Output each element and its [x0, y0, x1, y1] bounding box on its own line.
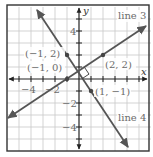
line-3-label: line 3 — [118, 10, 146, 21]
point-1-neg1 — [89, 89, 93, 93]
point-label-neg1-2: (−1, 2) — [25, 48, 60, 59]
point-label-neg1-0: (−1, 0) — [27, 62, 62, 73]
point-label-1-neg1: (1, −1) — [95, 86, 130, 97]
right-angle-marker — [83, 68, 90, 79]
line-4-label: line 4 — [118, 112, 146, 123]
y-axis-label: y — [82, 5, 89, 16]
tick-label-y-neg2: −2 — [62, 98, 77, 109]
point-label-2-2: (2, 2) — [105, 59, 132, 70]
tick-label-x-neg4: −4 — [21, 84, 36, 95]
point-neg1-0 — [65, 77, 69, 81]
plot-border — [7, 5, 149, 151]
point-neg1-2 — [65, 53, 69, 57]
tick-label-y-neg4: −4 — [62, 122, 77, 133]
coordinate-plane: y x −4 −2 4 −2 −4 (−1, 2) (−1, 0) (2, 2)… — [0, 0, 153, 157]
point-2-2 — [101, 53, 105, 57]
tick-label-y-4: 4 — [70, 26, 76, 37]
x-axis-label: x — [141, 66, 147, 77]
